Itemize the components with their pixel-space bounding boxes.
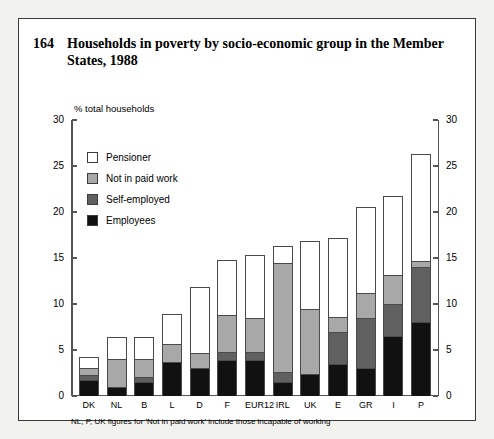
y-tick-label-left-0: 0 — [58, 390, 64, 401]
bar-segment-D-employees — [190, 368, 210, 396]
bar-segment-GR-employees — [356, 368, 376, 396]
bar-segment-EUR12-not-in-paid-work — [245, 318, 265, 352]
bar-segment-B-not-in-paid-work — [134, 359, 154, 376]
bar-segment-IRL-self-employed — [273, 372, 293, 382]
bar-segment-E-employees — [328, 364, 348, 396]
bar-segment-IRL-pensioner — [273, 246, 293, 263]
x-axis-label-UK: UK — [300, 400, 320, 410]
figure-frame: 164 Households in poverty by socio-econo… — [18, 18, 476, 421]
bar-segment-NL-pensioner — [107, 337, 127, 359]
bar-segment-UK-employees — [300, 374, 320, 396]
figure-number: 164 — [33, 35, 67, 52]
x-axis-label-NL: NL — [107, 400, 127, 410]
bar-segment-F-pensioner — [217, 260, 237, 315]
bar-E[interactable] — [328, 238, 348, 396]
bar-DK[interactable] — [79, 357, 99, 396]
bar-segment-L-not-in-paid-work — [162, 344, 182, 362]
bar-segment-EUR12-pensioner — [245, 255, 265, 318]
y-tick-label-right-5: 5 — [446, 344, 452, 355]
legend-item-not-in-paid-work[interactable]: Not in paid work — [87, 168, 178, 189]
legend-swatch-icon — [87, 194, 98, 205]
chart-legend: PensionerNot in paid workSelf-employedEm… — [87, 147, 178, 231]
y-tick-label-right-25: 25 — [446, 160, 457, 171]
bar-segment-F-not-in-paid-work — [217, 315, 237, 352]
bar-NL[interactable] — [107, 337, 127, 396]
bar-EUR12[interactable] — [245, 255, 265, 396]
legend-swatch-icon — [87, 215, 98, 226]
legend-label: Not in paid work — [106, 173, 178, 184]
bar-segment-B-employees — [134, 382, 154, 396]
x-axis-label-D: D — [190, 400, 210, 410]
bar-D[interactable] — [190, 287, 210, 396]
bar-segment-EUR12-employees — [245, 360, 265, 396]
x-axis-label-P: P — [411, 400, 431, 410]
x-axis-label-DK: DK — [79, 400, 99, 410]
x-axis-label-B: B — [134, 400, 154, 410]
x-axis-label-L: L — [162, 400, 182, 410]
x-axis-label-IRL: IRL — [273, 400, 293, 410]
bar-segment-NL-not-in-paid-work — [107, 359, 127, 387]
bar-segment-F-employees — [217, 360, 237, 396]
bar-segment-UK-pensioner — [300, 241, 320, 308]
legend-swatch-icon — [87, 173, 98, 184]
x-axis-label-I: I — [383, 400, 403, 410]
bar-L[interactable] — [162, 314, 182, 396]
bar-segment-I-employees — [383, 336, 403, 396]
x-axis-label-GR: GR — [356, 400, 376, 410]
y-tick-label-right-15: 15 — [446, 252, 457, 263]
x-axis-label-F: F — [217, 400, 237, 410]
bar-segment-E-not-in-paid-work — [328, 317, 348, 332]
bar-segment-I-not-in-paid-work — [383, 275, 403, 304]
bar-segment-D-not-in-paid-work — [190, 353, 210, 369]
legend-swatch-icon — [87, 152, 98, 163]
bar-segment-GR-not-in-paid-work — [356, 293, 376, 318]
y-tick-label-right-30: 30 — [446, 114, 457, 125]
y-tick-label-right-0: 0 — [446, 390, 452, 401]
bar-segment-P-employees — [411, 322, 431, 396]
bar-segment-DK-employees — [79, 380, 99, 396]
bar-segment-EUR12-self-employed — [245, 352, 265, 360]
bar-segment-I-pensioner — [383, 196, 403, 274]
y-tick-label-left-25: 25 — [53, 160, 64, 171]
x-axis-label-EUR12: EUR12 — [245, 400, 265, 410]
legend-item-self-employed[interactable]: Self-employed — [87, 189, 178, 210]
figure-footnote: NL, P, UK figures for 'Not in paid work'… — [71, 417, 331, 426]
x-axis-label-E: E — [328, 400, 348, 410]
y-tick-label-left-30: 30 — [53, 114, 64, 125]
bar-segment-P-pensioner — [411, 154, 431, 261]
bar-segment-GR-self-employed — [356, 318, 376, 369]
bar-segment-DK-pensioner — [79, 357, 99, 368]
bar-segment-UK-not-in-paid-work — [300, 309, 320, 374]
y-tick-label-left-15: 15 — [53, 252, 64, 263]
bar-P[interactable] — [411, 154, 431, 396]
bar-segment-P-self-employed — [411, 267, 431, 322]
bar-segment-E-self-employed — [328, 332, 348, 364]
y-tick-label-left-10: 10 — [53, 298, 64, 309]
y-tick-label-right-10: 10 — [446, 298, 457, 309]
x-axis-labels: DKNLBLDFEUR12IRLUKEGRIP — [71, 400, 439, 410]
bar-segment-I-self-employed — [383, 304, 403, 336]
legend-label: Pensioner — [106, 152, 151, 163]
bar-UK[interactable] — [300, 241, 320, 396]
bar-segment-GR-pensioner — [356, 207, 376, 293]
figure-title-row: 164 Households in poverty by socio-econo… — [33, 35, 453, 69]
legend-item-employees[interactable]: Employees — [87, 210, 178, 231]
legend-item-pensioner[interactable]: Pensioner — [87, 147, 178, 168]
bar-GR[interactable] — [356, 207, 376, 396]
y-tick-label-left-5: 5 — [58, 344, 64, 355]
bar-segment-D-pensioner — [190, 287, 210, 353]
bar-segment-IRL-employees — [273, 382, 293, 396]
y-tick-label-left-20: 20 — [53, 206, 64, 217]
legend-label: Employees — [106, 215, 155, 226]
bar-segment-L-employees — [162, 362, 182, 396]
bar-segment-E-pensioner — [328, 238, 348, 317]
y-tick-label-right-20: 20 — [446, 206, 457, 217]
bar-F[interactable] — [217, 260, 237, 396]
bar-IRL[interactable] — [273, 246, 293, 396]
bar-segment-B-pensioner — [134, 337, 154, 359]
bar-B[interactable] — [134, 337, 154, 396]
bar-I[interactable] — [383, 196, 403, 396]
legend-label: Self-employed — [106, 194, 170, 205]
bar-segment-L-pensioner — [162, 314, 182, 343]
page-title: Households in poverty by socio-economic … — [67, 35, 453, 69]
